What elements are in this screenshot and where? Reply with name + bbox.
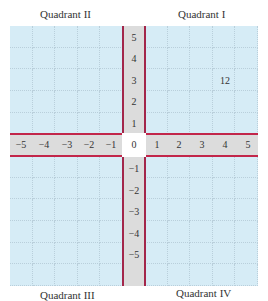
grid-cell	[78, 69, 101, 91]
grid-cell	[78, 156, 101, 178]
grid-cell	[100, 26, 123, 48]
grid-cell	[168, 91, 191, 113]
grid-cell	[78, 91, 101, 113]
grid-cell	[213, 91, 236, 113]
grid-cell	[213, 48, 236, 70]
grid-cell	[33, 199, 56, 221]
x-label: −2	[77, 133, 101, 157]
grid-cell	[145, 48, 168, 70]
grid-cell	[55, 243, 78, 265]
grid-cell	[78, 243, 101, 265]
grid-cell	[168, 199, 191, 221]
grid-cell	[78, 178, 101, 200]
grid-cell	[213, 178, 236, 200]
x-label: 1	[145, 133, 169, 157]
grid-cell	[78, 48, 101, 70]
grid-cell	[55, 91, 78, 113]
y-label: −1	[122, 157, 146, 181]
grid-cell	[33, 264, 56, 286]
grid-cell	[55, 221, 78, 243]
grid-cell	[10, 91, 33, 113]
grid-cell	[10, 199, 33, 221]
grid-cell	[145, 221, 168, 243]
grid-cell	[213, 221, 236, 243]
grid-cell	[168, 26, 191, 48]
grid-cell	[10, 113, 33, 135]
grid-cell	[213, 113, 236, 135]
grid-cell	[78, 113, 101, 135]
grid-cell	[145, 113, 168, 135]
grid-cell	[100, 156, 123, 178]
grid-cell	[55, 178, 78, 200]
grid-cell	[33, 48, 56, 70]
grid-cell	[10, 48, 33, 70]
grid-cell	[235, 156, 258, 178]
grid-cell	[55, 69, 78, 91]
grid-cell	[145, 91, 168, 113]
y-label: 2	[122, 90, 146, 114]
x-label-origin: 0	[122, 133, 146, 157]
grid-cell	[190, 48, 213, 70]
quadrant-ii-label: Quadrant II	[40, 8, 91, 20]
x-label: 4	[213, 133, 237, 157]
grid-cell	[213, 156, 236, 178]
x-label: 2	[167, 133, 191, 157]
grid-cell	[100, 221, 123, 243]
grid-cell	[100, 243, 123, 265]
quadrant-iii-label: Quadrant III	[40, 289, 95, 301]
grid-cell	[100, 69, 123, 91]
grid-cell	[213, 26, 236, 48]
quadrant-i-label: Quadrant I	[178, 8, 225, 20]
x-label: 5	[236, 133, 260, 157]
grid-cell	[168, 243, 191, 265]
grid-cell	[78, 199, 101, 221]
quadrant-iv-label: Quadrant IV	[176, 287, 231, 299]
grid-cell	[33, 221, 56, 243]
grid-cell	[190, 243, 213, 265]
grid-cell	[190, 26, 213, 48]
grid-cell	[55, 199, 78, 221]
grid-cell	[145, 178, 168, 200]
grid-cell	[100, 48, 123, 70]
grid-cell	[10, 26, 33, 48]
grid-cell	[78, 264, 101, 286]
grid-cell	[190, 156, 213, 178]
grid-cell	[55, 113, 78, 135]
grid-cell	[55, 48, 78, 70]
grid-cell	[33, 69, 56, 91]
grid-cell	[235, 113, 258, 135]
grid-cell	[145, 156, 168, 178]
grid-cell	[145, 243, 168, 265]
grid-cell	[78, 221, 101, 243]
grid-cell	[190, 91, 213, 113]
grid-cell	[235, 69, 258, 91]
grid-cell	[235, 91, 258, 113]
grid-cell	[10, 221, 33, 243]
grid-cell	[100, 178, 123, 200]
grid-cell	[100, 199, 123, 221]
y-label: 4	[122, 47, 146, 71]
annotation-label: 12	[213, 69, 237, 93]
grid-cell	[168, 113, 191, 135]
grid-cell	[33, 243, 56, 265]
grid-cell	[190, 264, 213, 286]
grid-cell	[235, 264, 258, 286]
grid-cell	[55, 156, 78, 178]
grid-cell	[78, 26, 101, 48]
grid-cell	[168, 156, 191, 178]
x-label: −4	[32, 133, 56, 157]
x-label: −1	[99, 133, 123, 157]
grid-cell	[190, 113, 213, 135]
grid-cell	[213, 199, 236, 221]
x-label: −3	[55, 133, 79, 157]
grid-cell	[10, 69, 33, 91]
grid-cell	[235, 199, 258, 221]
y-label: −5	[122, 243, 146, 267]
grid-cell	[213, 264, 236, 286]
grid-cell	[190, 199, 213, 221]
grid-cell	[235, 221, 258, 243]
grid-cell	[10, 178, 33, 200]
grid-cell	[235, 48, 258, 70]
grid-cell	[145, 264, 168, 286]
grid-cell	[235, 243, 258, 265]
